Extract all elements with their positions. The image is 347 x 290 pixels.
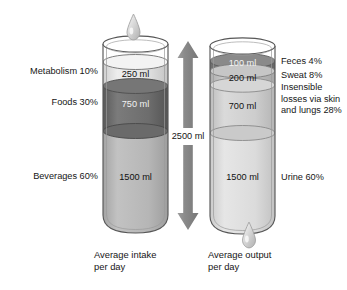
output-label-urine: Urine 60% — [281, 172, 345, 184]
intake-label-foods: Foods 30% — [2, 97, 98, 109]
output-volume-feces: 100 ml — [210, 58, 275, 69]
arrow-down-icon — [178, 145, 199, 230]
output-label-feces: Feces 4% — [281, 56, 345, 68]
output-volume-insensible: 700 ml — [210, 101, 275, 112]
output-volume-sweat: 200 ml — [210, 73, 275, 84]
intake-caption: Average intake per day — [94, 249, 194, 272]
intake-volume-beverages: 1500 ml — [103, 172, 168, 183]
intake-cylinder — [103, 14, 168, 234]
intake-label-beverages: Beverages 60% — [2, 171, 98, 183]
intake-label-metabolism: Metabolism 10% — [2, 66, 98, 78]
intake-droplet — [127, 14, 140, 40]
output-cylinder-rim — [210, 38, 275, 54]
diagram-graphics — [0, 0, 347, 290]
output-label-sweat: Sweat 8% — [281, 70, 345, 82]
output-volume-urine: 1500 ml — [210, 172, 275, 183]
intake-volume-foods: 750 ml — [103, 99, 168, 110]
arrow-up-icon — [178, 41, 199, 128]
output-label-insensible: Insensible losses via skin and lungs 28% — [281, 82, 343, 117]
fluid-balance-diagram: Metabolism 10% Foods 30% Beverages 60% 2… — [0, 0, 347, 290]
total-volume-label: 2500 ml — [163, 131, 213, 141]
output-caption: Average output per day — [208, 249, 318, 272]
output-layer-urine-fill — [210, 133, 275, 234]
intake-volume-metabolism: 250 ml — [103, 69, 168, 80]
output-cylinder — [210, 38, 275, 248]
